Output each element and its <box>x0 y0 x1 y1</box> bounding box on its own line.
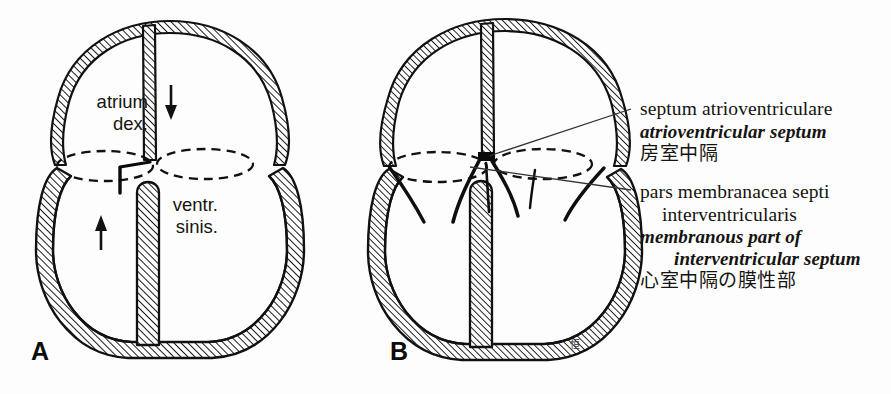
panel-a-ventricle-label: ventr. sinis. <box>140 194 218 238</box>
panel-a-ventricle-label-line2: sinis. <box>140 216 218 238</box>
panel-a-ventricle-label-line1: ventr. <box>140 194 218 216</box>
callout-2-latin-line1: pars membranacea septi <box>640 179 861 202</box>
panel-letter-a: A <box>31 337 49 366</box>
callout-1-english: atrioventricular septum <box>640 119 832 141</box>
callout-1-japanese: 房室中隔 <box>640 141 832 163</box>
callout-2-english-line1: membranous part of <box>640 224 861 246</box>
panel-a-atrium-label-line2: dex. <box>58 113 148 135</box>
callout-2-japanese: 心室中隔の膜性部 <box>640 268 861 290</box>
panel-letter-b: B <box>390 337 408 366</box>
artist-signature: 恒 <box>570 338 580 350</box>
callout-septum-atrioventriculare: septum atrioventriculare atrioventricula… <box>640 96 832 163</box>
callout-1-latin: septum atrioventriculare <box>640 96 832 119</box>
callout-2-english-line2: interventricular septum <box>640 246 861 268</box>
panel-a-atrium-label-line1: atrium <box>58 91 148 113</box>
callout-2-latin-line2: interventricularis <box>640 202 861 225</box>
panel-a-atrium-label: atrium dex. <box>58 91 148 135</box>
callout-pars-membranacea-septi-interventricularis: pars membranacea septi interventriculari… <box>640 179 861 290</box>
panel-b-atrial-septum <box>481 23 494 157</box>
